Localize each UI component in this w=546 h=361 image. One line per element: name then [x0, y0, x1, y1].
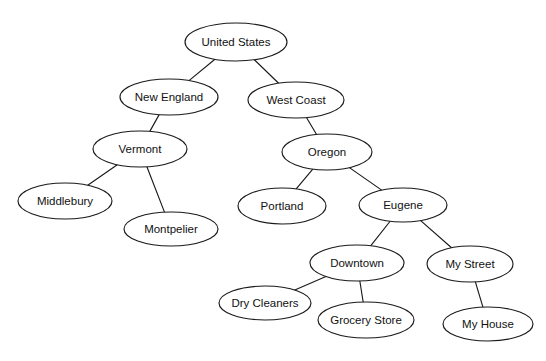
node-my-house[interactable]: My House	[443, 307, 533, 341]
tree-diagram: United StatesNew EnglandWest CoastVermon…	[0, 0, 546, 361]
diagram-canvas: United StatesNew EnglandWest CoastVermon…	[0, 0, 546, 361]
node-shape-grocery-store[interactable]	[318, 302, 414, 338]
node-layer: United StatesNew EnglandWest CoastVermon…	[18, 23, 533, 341]
node-shape-montpelier[interactable]	[124, 212, 218, 246]
edge-new-england-to-vermont	[150, 115, 159, 132]
node-dry-cleaners[interactable]: Dry Cleaners	[219, 286, 311, 320]
node-shape-oregon[interactable]	[282, 134, 372, 170]
edge-west-coast-to-oregon	[306, 118, 316, 135]
node-shape-new-england[interactable]	[120, 79, 218, 115]
node-west-coast[interactable]: West Coast	[248, 82, 344, 118]
node-united-states[interactable]: United States	[185, 23, 287, 61]
node-middlebury[interactable]: Middlebury	[18, 183, 112, 219]
edge-united-states-to-west-coast	[254, 60, 278, 83]
edge-eugene-to-downtown	[371, 221, 390, 246]
node-shape-eugene[interactable]	[359, 188, 447, 222]
node-shape-west-coast[interactable]	[248, 82, 344, 118]
node-shape-vermont[interactable]	[93, 131, 187, 167]
edge-vermont-to-middlebury	[88, 165, 118, 185]
node-downtown[interactable]: Downtown	[310, 245, 404, 281]
node-shape-my-street[interactable]	[427, 246, 513, 282]
node-shape-downtown[interactable]	[310, 245, 404, 281]
node-grocery-store[interactable]: Grocery Store	[318, 302, 414, 338]
edge-united-states-to-new-england	[189, 59, 215, 80]
edge-oregon-to-portland	[296, 169, 313, 189]
edge-oregon-to-eugene	[349, 168, 381, 191]
edge-my-street-to-my-house	[475, 282, 483, 307]
node-shape-middlebury[interactable]	[18, 183, 112, 219]
node-montpelier[interactable]: Montpelier	[124, 212, 218, 246]
node-my-street[interactable]: My Street	[427, 246, 513, 282]
node-vermont[interactable]: Vermont	[93, 131, 187, 167]
node-eugene[interactable]: Eugene	[359, 188, 447, 222]
edge-vermont-to-montpelier	[147, 167, 165, 212]
node-shape-united-states[interactable]	[185, 23, 287, 61]
edge-downtown-to-grocery-store	[360, 281, 363, 302]
node-new-england[interactable]: New England	[120, 79, 218, 115]
edge-eugene-to-my-street	[421, 221, 452, 248]
node-oregon[interactable]: Oregon	[282, 134, 372, 170]
node-portland[interactable]: Portland	[238, 188, 326, 224]
node-shape-my-house[interactable]	[443, 307, 533, 341]
node-shape-portland[interactable]	[238, 188, 326, 224]
node-shape-dry-cleaners[interactable]	[219, 286, 311, 320]
edge-downtown-to-dry-cleaners	[295, 277, 326, 291]
